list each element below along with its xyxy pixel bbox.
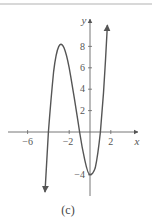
x-axis-label: x xyxy=(134,135,140,147)
y-tick-label: 2 xyxy=(80,105,85,116)
y-tick-label: 4 xyxy=(80,83,85,94)
x-tick-label: 2 xyxy=(108,136,113,147)
y-tick-label: 8 xyxy=(80,41,85,52)
x-tick-label: −6 xyxy=(22,136,33,147)
y-tick-label: 6 xyxy=(80,62,85,73)
y-tick-label: −4 xyxy=(74,169,85,180)
graph: −6 −2 2 8 6 4 2 −4 x y xyxy=(0,0,152,218)
function-curve xyxy=(45,25,107,192)
x-tick-label: −2 xyxy=(63,136,74,147)
y-axis-label: y xyxy=(81,14,87,26)
figure-caption: (c) xyxy=(0,203,136,218)
